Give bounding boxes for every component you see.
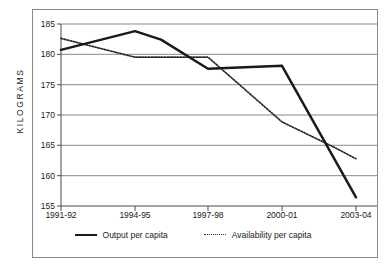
x-tick-label-1991-92: 1991-92	[37, 210, 85, 220]
y-tick-label-185: 185	[29, 19, 55, 29]
chart-legend: Output per capita Availability per capit…	[0, 230, 386, 240]
y-tick-label-160: 160	[29, 171, 55, 181]
y-axis-title: KILOGRAMS	[15, 41, 25, 161]
chart-figure: KILOGRAMS	[0, 0, 386, 268]
y-tick-label-180: 180	[29, 49, 55, 59]
legend-swatch-solid-line-icon	[75, 232, 97, 238]
y-tick-label-175: 175	[29, 80, 55, 90]
y-tick-marks	[57, 24, 61, 206]
x-tick-label-1994-95: 1994-95	[111, 210, 159, 220]
legend-item-output-per-capita[interactable]: Output per capita	[75, 230, 168, 240]
legend-item-availability-per-capita[interactable]: Availability per capita	[204, 230, 312, 240]
series-availability-per-capita	[61, 38, 356, 158]
x-tick-label-2003-04: 2003-04	[332, 210, 380, 220]
gridlines	[61, 24, 377, 176]
y-tick-label-165: 165	[29, 140, 55, 150]
legend-label-availability-per-capita: Availability per capita	[232, 230, 312, 240]
series-output-per-capita	[61, 31, 356, 197]
legend-label-output-per-capita: Output per capita	[103, 230, 168, 240]
y-tick-label-170: 170	[29, 110, 55, 120]
x-tick-label-1997-98: 1997-98	[184, 210, 232, 220]
chart-frame: 185 180 175 170 165 160 155 1991-92 1994…	[32, 9, 378, 258]
legend-swatch-dotted-line-icon	[204, 232, 226, 238]
x-tick-label-2000-01: 2000-01	[258, 210, 306, 220]
